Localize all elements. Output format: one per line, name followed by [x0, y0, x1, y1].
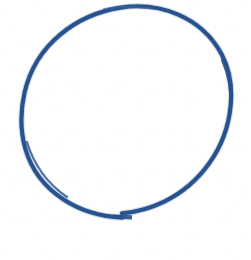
circle-closure-notch	[113, 214, 132, 219]
drawing-canvas: Hand-drawn blue circle A single freehand…	[0, 0, 251, 260]
freehand-drawing	[0, 0, 251, 260]
